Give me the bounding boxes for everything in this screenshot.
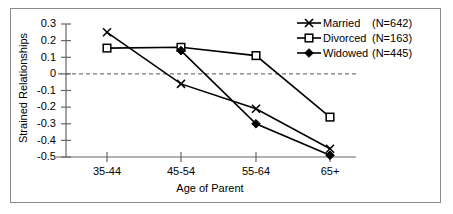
series-widowed bbox=[181, 51, 330, 156]
legend-count-married: (N=642) bbox=[372, 17, 412, 29]
legend-label-divorced: Divorced bbox=[323, 32, 372, 44]
legend-item-divorced: Divorced (N=163) bbox=[296, 30, 444, 45]
legend-item-married: Married (N=642) bbox=[296, 15, 444, 30]
open-square-marker-icon bbox=[296, 31, 322, 45]
chart-figure: 0.3 0.2 0.1 0 -0.1 -0.2 -0.3 -0.4 -0.5 3… bbox=[0, 0, 453, 214]
chart-legend: Married (N=642) Divorced (N=163) Widowed bbox=[296, 15, 444, 60]
y-tick-label-0: 0.3 bbox=[26, 18, 56, 29]
legend-label-widowed: Widowed bbox=[323, 47, 372, 59]
series-widowed-markers bbox=[177, 46, 335, 159]
y-tick-label-6: -0.3 bbox=[26, 118, 56, 129]
y-tick-label-8: -0.5 bbox=[26, 151, 56, 162]
x-axis-title: Age of Parent bbox=[130, 182, 290, 194]
x-tick-label-3: 65+ bbox=[300, 166, 360, 177]
y-tick-label-3: 0 bbox=[26, 68, 56, 79]
y-tick-label-7: -0.4 bbox=[26, 135, 56, 146]
x-tick-label-1: 45-54 bbox=[151, 166, 211, 177]
y-tick-label-5: -0.2 bbox=[26, 101, 56, 112]
y-tick-label-4: -0.1 bbox=[26, 85, 56, 96]
y-axis-title: Strained Relationships bbox=[17, 18, 29, 158]
filled-diamond-marker-icon bbox=[296, 46, 322, 60]
x-tick-label-2: 55-64 bbox=[226, 166, 286, 177]
legend-item-widowed: Widowed (N=445) bbox=[296, 45, 444, 60]
x-marker-icon bbox=[296, 16, 322, 30]
y-tick-label-1: 0.2 bbox=[26, 35, 56, 46]
x-tick-label-0: 35-44 bbox=[77, 166, 137, 177]
legend-count-widowed: (N=445) bbox=[372, 47, 412, 59]
legend-count-divorced: (N=163) bbox=[372, 32, 412, 44]
y-tick-label-2: 0.1 bbox=[26, 52, 56, 63]
legend-label-married: Married bbox=[323, 17, 372, 29]
